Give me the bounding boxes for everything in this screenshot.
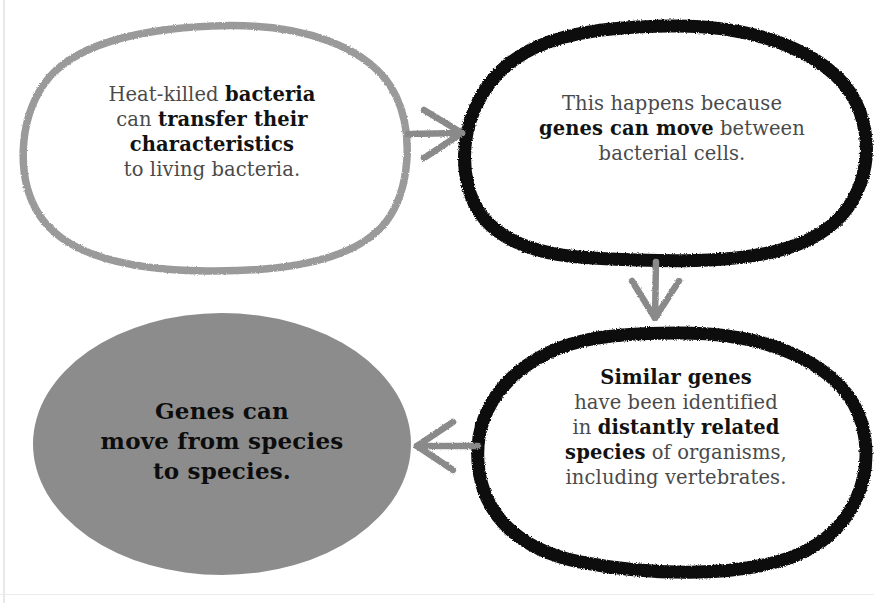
arrow-down-icon xyxy=(632,262,679,318)
arrow-right-icon xyxy=(408,110,462,158)
node-label-line: Genes can xyxy=(55,396,389,426)
node-label-heat-killed-bacteria: Heat-killed bacteriacan transfer theirch… xyxy=(62,83,362,183)
node-label-line: to living bacteria. xyxy=(62,158,362,183)
node-label-line: have been identified xyxy=(506,391,846,416)
node-label-line: move from species xyxy=(55,426,389,456)
scan-artifact-left-edge xyxy=(3,0,5,603)
node-label-line: Heat-killed bacteria xyxy=(62,83,362,108)
node-label-line: can transfer their xyxy=(62,108,362,133)
node-label-line: in distantly related xyxy=(506,416,846,441)
node-label-conclusion: Genes canmove from speciesto species. xyxy=(55,396,389,486)
arrow-left-icon xyxy=(417,422,478,470)
scan-artifact-bottom-edge xyxy=(0,594,874,595)
node-label-line: This happens because xyxy=(500,92,844,117)
node-label-line: Similar genes xyxy=(506,366,846,391)
node-label-line: species of organisms, xyxy=(506,441,846,466)
diagram-canvas: Heat-killed bacteriacan transfer theirch… xyxy=(0,0,874,603)
node-label-line: bacterial cells. xyxy=(500,142,844,167)
node-label-line: including vertebrates. xyxy=(506,466,846,491)
node-label-line: to species. xyxy=(55,456,389,486)
node-label-line: genes can move between xyxy=(500,117,844,142)
node-label-line: characteristics xyxy=(62,133,362,158)
node-label-genes-can-move: This happens becausegenes can move betwe… xyxy=(500,92,844,167)
node-label-similar-genes: Similar geneshave been identifiedin dist… xyxy=(506,366,846,491)
